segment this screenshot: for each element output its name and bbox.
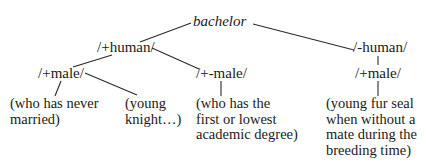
leaf-never-married: (who has never married) [10, 96, 99, 127]
leaf-academic-degree: (who has the first or lowest academic de… [196, 96, 298, 143]
node-plus-male-left: /+male/ [38, 66, 84, 81]
node-plus-male-right: /+male/ [355, 66, 401, 81]
node-plusminus-male: /+-male/ [196, 66, 247, 81]
leaf-fur-seal: (young fur seal when without a mate duri… [326, 96, 417, 158]
edge-plus-male-young-knight [85, 73, 137, 95]
node-minus-human: /-human/ [353, 40, 407, 55]
node-plus-human: /+human/ [97, 40, 155, 55]
edge-plus-male-never-married [55, 81, 61, 96]
root-node-bachelor: bachelor [193, 14, 246, 29]
edge-bachelor-minus-human [253, 24, 354, 50]
leaf-young-knight: (young knight…) [125, 96, 181, 127]
edge-plus-human-plusminus-male [152, 48, 199, 69]
